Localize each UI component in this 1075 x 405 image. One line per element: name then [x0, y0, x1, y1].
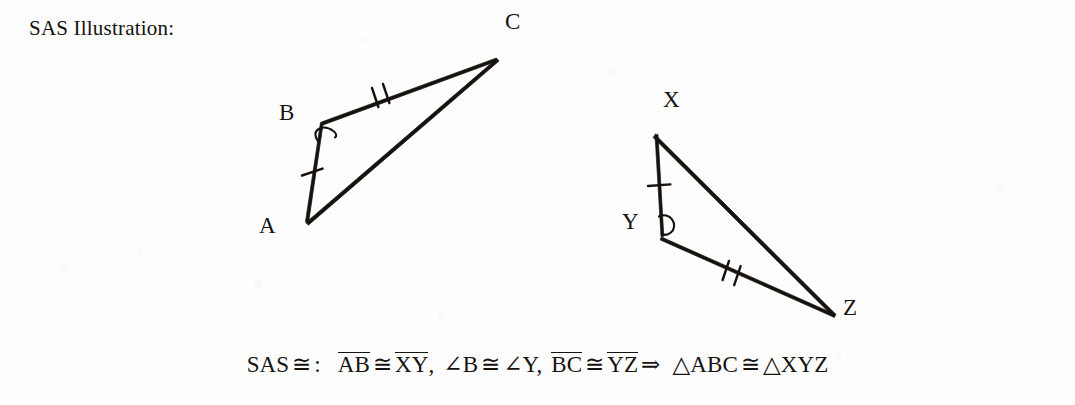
- side-xz: [653, 135, 836, 317]
- formula-congruent-5: ≅: [738, 352, 763, 377]
- segment-ab: AB: [338, 352, 370, 377]
- triangle-xyz: [648, 135, 836, 318]
- congruence-statement: SAS≅:AB≅XY,∠B≅∠Y,BC≅YZ⇒△ABC≅△XYZ: [0, 352, 1075, 377]
- side-yz: [660, 237, 835, 317]
- segment-yz: YZ: [607, 352, 638, 377]
- vertex-label-x: X: [663, 88, 680, 111]
- side-bc: [322, 58, 498, 125]
- angle-b: ∠B: [443, 352, 478, 377]
- formula-congruent-3: ≅: [478, 352, 503, 377]
- tick-yz-2: [734, 266, 740, 285]
- geometry-figure: [0, 0, 1075, 405]
- vertex-label-z: Z: [843, 296, 857, 319]
- sas-illustration-page: SAS Illustration: A B C X Y Z SAS≅:AB≅XY…: [0, 0, 1075, 405]
- page-title: SAS Illustration:: [29, 16, 174, 41]
- vertex-label-b: B: [279, 101, 294, 124]
- formula-congruent-4: ≅: [582, 352, 607, 377]
- formula-prefix: SAS: [247, 352, 290, 377]
- triangle-abc-symbol: △ABC: [672, 352, 737, 377]
- formula-congruent-1: ≅: [289, 352, 314, 377]
- formula-congruent-2: ≅: [370, 352, 395, 377]
- tick-xy-1: [648, 184, 670, 186]
- implies-arrow: ⇒: [638, 352, 663, 377]
- formula-colon: :: [314, 352, 321, 377]
- vertex-label-a: A: [259, 214, 276, 237]
- tick-yz-1: [723, 261, 729, 280]
- segment-xy: XY: [395, 352, 428, 377]
- vertex-label-y: Y: [622, 210, 639, 233]
- triangle-abc: [302, 58, 499, 225]
- formula-comma-1: ,: [428, 352, 434, 377]
- triangle-xyz-symbol: △XYZ: [763, 352, 828, 377]
- side-ac: [306, 59, 499, 226]
- formula-comma-2: ,: [536, 352, 542, 377]
- angle-y: ∠Y: [503, 352, 536, 377]
- segment-bc: BC: [551, 352, 582, 377]
- vertex-label-c: C: [505, 10, 520, 33]
